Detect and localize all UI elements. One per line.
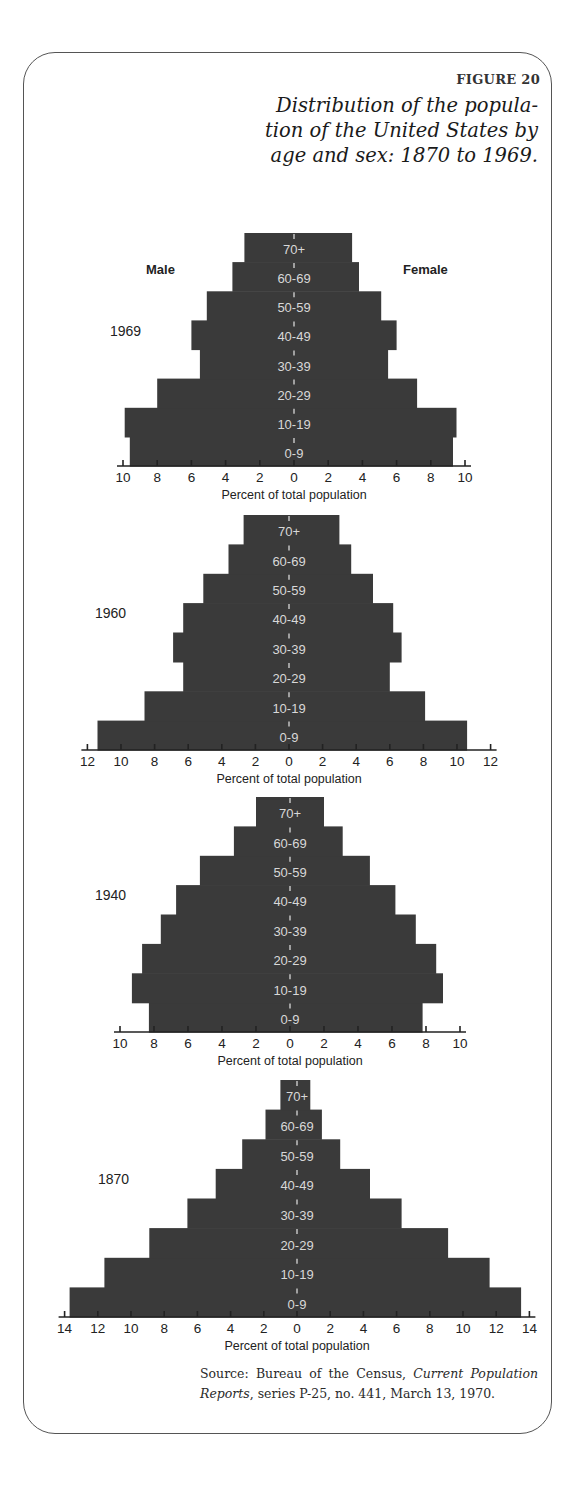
bar-female-10-19 [289,691,425,721]
x-tick-label: 8 [153,470,161,485]
x-tick-label: 0 [286,1036,294,1051]
bar-male-20-29 [157,379,294,409]
age-label: 0-9 [281,1012,300,1027]
x-tick-label: 4 [352,754,360,769]
x-tick-label: 8 [151,754,159,769]
x-tick-label: 2 [252,754,260,769]
x-tick-label: 8 [427,470,435,485]
x-tick-label: 8 [422,1036,430,1051]
age-label: 10-19 [272,701,305,716]
x-tick-label: 2 [326,1321,334,1336]
age-label: 70+ [279,806,301,821]
x-tick-label: 12 [90,1321,105,1336]
bar-male-30-39 [161,915,290,945]
age-label: 30-39 [272,642,305,657]
age-label: 40-49 [280,1178,313,1193]
x-tick-label: 6 [194,1321,202,1336]
age-label: 60-69 [272,554,305,569]
x-tick-label: 4 [218,754,226,769]
x-tick-label: 8 [420,754,428,769]
x-tick-label: 14 [522,1321,538,1336]
x-tick-label: 2 [252,1036,260,1051]
year-label: 1940 [95,887,126,903]
x-tick-label: 4 [359,470,367,485]
year-label: 1969 [110,323,141,339]
age-label: 20-29 [277,388,310,403]
x-tick-label: 2 [319,754,327,769]
population-pyramids: 0-910-1920-2930-3940-4950-5960-6970+1086… [0,0,588,1497]
x-tick-label: 2 [320,1036,328,1051]
x-tick-label: 0 [290,470,298,485]
bar-male-0-9 [149,1003,290,1033]
x-tick-label: 8 [150,1036,158,1051]
x-axis-label: Percent of total population [224,1339,369,1353]
bar-female-20-29 [297,1228,448,1258]
bar-male-0-9 [130,437,294,467]
pyramid-1940: 0-910-1920-2930-3940-4950-5960-6970+1086… [95,797,468,1068]
x-tick-label: 6 [386,754,394,769]
source-note: Source: Bureau of the Census, Current Po… [200,1364,538,1404]
x-tick-label: 10 [113,754,128,769]
age-label: 0-9 [288,1297,307,1312]
bar-female-30-39 [290,915,416,945]
x-tick-label: 12 [483,754,498,769]
bar-male-20-29 [142,944,290,974]
x-tick-label: 8 [160,1321,168,1336]
bar-female-0-9 [289,721,467,751]
age-label: 0-9 [285,446,304,461]
x-tick-label: 4 [218,1036,226,1051]
x-tick-label: 10 [455,1321,470,1336]
x-tick-label: 4 [360,1321,368,1336]
age-label: 40-49 [277,329,310,344]
age-label: 60-69 [273,836,306,851]
age-label: 70+ [283,242,305,257]
x-tick-label: 12 [80,754,95,769]
x-tick-label: 6 [184,754,192,769]
age-label: 30-39 [273,924,306,939]
age-label: 50-59 [272,583,305,598]
age-label: 0-9 [280,730,299,745]
age-label: 50-59 [280,1149,313,1164]
x-tick-label: 10 [123,1321,138,1336]
source-prefix: Source: Bureau of the Census, [200,1366,413,1381]
pyramid-1870: 0-910-1920-2930-3940-4950-5960-6970+1412… [57,1080,537,1353]
bar-female-0-9 [294,437,453,467]
age-label: 40-49 [273,894,306,909]
x-tick-label: 10 [452,1036,467,1051]
age-label: 50-59 [273,865,306,880]
x-tick-label: 4 [222,470,230,485]
age-label: 60-69 [280,1119,313,1134]
x-tick-label: 14 [57,1321,73,1336]
x-tick-label: 6 [188,470,196,485]
x-axis-label: Percent of total population [221,488,366,502]
x-tick-label: 10 [115,470,130,485]
bar-male-10-19 [145,691,290,721]
bar-female-0-9 [290,1003,423,1033]
pyramid-1960: 0-910-1920-2930-3940-4950-5960-6970+1210… [80,515,498,786]
source-suffix: , series P-25, no. 441, March 13, 1970. [250,1386,495,1401]
bar-male-10-19 [125,408,294,438]
bar-female-10-19 [290,973,443,1003]
x-tick-label: 6 [393,470,401,485]
legend-male: Male [146,262,175,277]
bar-female-30-39 [289,633,402,663]
age-label: 20-29 [272,671,305,686]
bar-male-20-29 [149,1228,297,1258]
x-tick-label: 4 [354,1036,362,1051]
age-label: 20-29 [273,953,306,968]
age-label: 20-29 [280,1238,313,1253]
bar-female-20-29 [294,379,417,409]
x-tick-label: 2 [324,470,332,485]
age-label: 50-59 [277,300,310,315]
legend-female: Female [403,262,448,277]
age-label: 10-19 [273,983,306,998]
bar-female-10-19 [294,408,457,438]
x-tick-label: 10 [457,470,472,485]
x-tick-label: 2 [260,1321,268,1336]
year-label: 1960 [95,605,126,621]
x-tick-label: 2 [256,470,264,485]
age-label: 10-19 [277,417,310,432]
age-label: 70+ [278,524,300,539]
age-label: 30-39 [277,359,310,374]
bar-male-0-9 [70,1287,297,1317]
